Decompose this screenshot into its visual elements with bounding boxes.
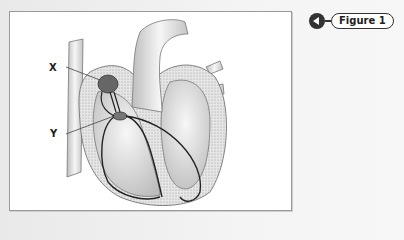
label-y: Y [50,128,57,139]
back-arrow-icon[interactable] [309,13,325,29]
label-x: X [49,62,57,73]
figure-label[interactable]: Figure 1 [331,13,394,29]
diagram-frame: X Y [9,11,292,211]
figure-1-button[interactable]: Figure 1 [309,12,394,30]
heart-illustration [10,12,291,210]
